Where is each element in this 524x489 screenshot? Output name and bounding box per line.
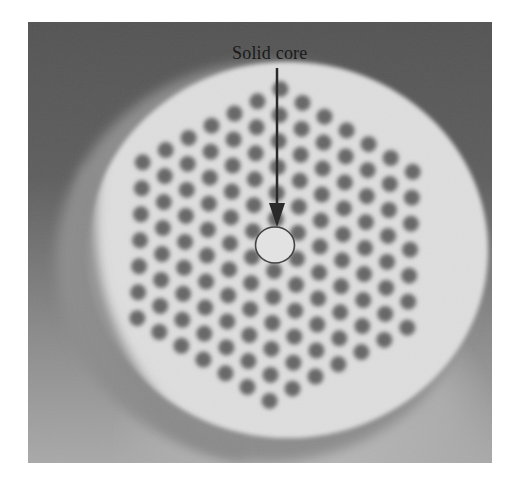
fiber-drawing	[28, 22, 492, 463]
core-marker-circle	[256, 227, 295, 263]
solid-core-label: Solid core	[232, 43, 308, 64]
fiber-cross-section-photo: Solid core	[28, 22, 492, 463]
